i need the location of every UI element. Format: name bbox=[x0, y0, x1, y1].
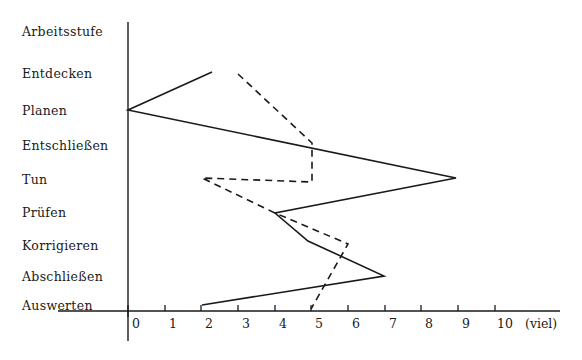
row-label-pruefen: Prüfen bbox=[0, 205, 120, 220]
x-tick-label-5: 5 bbox=[315, 316, 323, 331]
x-tick-label-9: 9 bbox=[462, 316, 470, 331]
row-label-entschliessen: Entschließen bbox=[0, 138, 120, 153]
x-tick-label-10: 10 bbox=[497, 316, 513, 331]
axis-header-label: Arbeitsstufe bbox=[0, 24, 120, 39]
x-tick-label-2: 2 bbox=[205, 316, 213, 331]
row-label-korrigieren: Korrigieren bbox=[0, 238, 120, 253]
x-tick-label-8: 8 bbox=[425, 316, 433, 331]
x-tick-label-6: 6 bbox=[352, 316, 360, 331]
x-tick-label-3: 3 bbox=[242, 316, 250, 331]
row-label-abschliessen: Abschließen bbox=[0, 269, 120, 284]
row-label-auswerten: Auswerten bbox=[0, 298, 120, 313]
chart-figure: Arbeitsstufe Entdecken Planen Entschließ… bbox=[0, 0, 582, 360]
x-tick-label-1: 1 bbox=[169, 316, 177, 331]
series-solid bbox=[128, 72, 456, 305]
row-label-entdecken: Entdecken bbox=[0, 66, 120, 81]
series-dashed bbox=[202, 74, 348, 309]
row-label-planen: Planen bbox=[0, 103, 120, 118]
x-axis-end-label: (viel) bbox=[525, 316, 557, 331]
x-tick-label-4: 4 bbox=[279, 316, 287, 331]
x-tick-label-0: 0 bbox=[132, 316, 140, 331]
x-tick-label-7: 7 bbox=[389, 316, 397, 331]
row-label-tun: Tun bbox=[0, 172, 120, 187]
